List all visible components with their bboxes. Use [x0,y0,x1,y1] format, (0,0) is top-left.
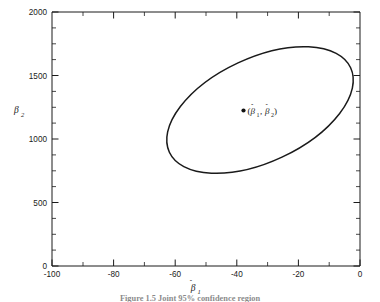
x-tick-label-0: 0 [358,270,363,279]
x-tick-label--80: -80 [108,270,120,279]
x-axis-title: β ˆ 1 [190,278,201,296]
annotation-beta-1: β [250,106,256,116]
estimate-annotation: ( ˆ β 1 , ˆ β 2 ) [241,102,277,118]
figure-caption: Figure 1.5 Joint 95% confidence region [120,294,261,302]
y-axis-title: β 2 [13,105,25,118]
y-tick-label-500: 500 [33,199,47,208]
chart-canvas: 0 500 1000 1500 2000 -100 -80 -60 -40 -2… [0,0,380,302]
right-axis-ticks [354,12,361,266]
x-tick-labels: -100 -80 -60 -40 -20 0 [44,270,363,279]
x-tick-label--100: -100 [44,270,61,279]
x-axis-ticks [52,260,360,267]
top-axis-ticks [83,12,329,19]
y-axis-title-subscript: 2 [21,111,25,118]
annotation-beta-2: β [264,106,270,116]
x-tick-label--40: -40 [231,270,243,279]
figure-confidence-region: 0 500 1000 1500 2000 -100 -80 -60 -40 -2… [0,0,380,302]
y-axis-title-beta: β [13,105,19,115]
x-tick-label--20: -20 [292,270,304,279]
annotation-close-paren: ) [274,106,277,116]
y-tick-labels: 0 500 1000 1500 2000 [29,8,48,271]
y-tick-label-1500: 1500 [29,72,48,81]
y-tick-label-1000: 1000 [29,135,48,144]
y-tick-label-2000: 2000 [29,8,48,17]
annotation-comma: , [260,106,262,116]
y-axis-ticks [52,12,59,266]
estimate-point-marker [241,108,245,112]
x-tick-label--60: -60 [169,270,181,279]
figure-caption-text: Figure 1.5 Joint 95% confidence region [120,294,261,302]
